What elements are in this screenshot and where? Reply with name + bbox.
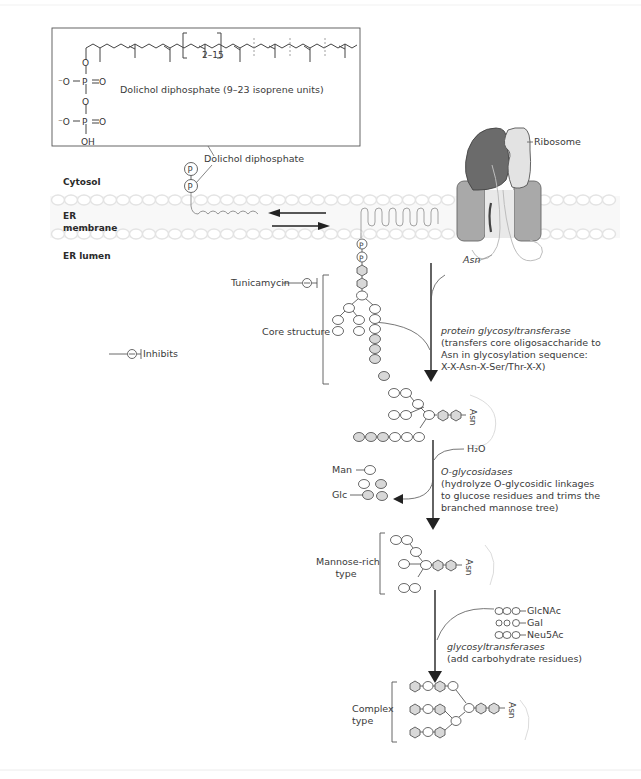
removed-sugars <box>350 466 388 501</box>
er-lumen-label: ER lumen <box>63 250 111 262</box>
ribosome-translocon <box>457 128 542 262</box>
step-1-text: protein glycosyltransferase (transfers c… <box>441 325 601 373</box>
neu5ac-label: Neu5Ac <box>527 629 564 641</box>
atom-o: O <box>99 77 106 87</box>
mannose-label: Man <box>332 464 352 476</box>
atom-o: O <box>82 97 89 107</box>
complex-type-label-line1: Complex <box>352 703 394 715</box>
step-2-desc-line: (hydrolyze O-glycosidic linkages <box>441 478 600 490</box>
dolichol-diphosphate-label: Dolichol diphosphate <box>204 153 304 165</box>
step-2-enzyme: O-glycosidases <box>441 466 600 478</box>
er-membrane-label-line2: membrane <box>63 222 117 234</box>
gal-label: Gal <box>527 617 543 629</box>
repeat-count-label: 2–15 <box>202 49 224 61</box>
svg-text:P: P <box>359 254 364 263</box>
glcnac-label: GlcNAc <box>527 605 561 617</box>
asn-peptide-label: Asn <box>463 254 480 266</box>
glucose-label: Glc <box>332 489 347 501</box>
asn-label: Asn <box>468 409 478 426</box>
atom-o-anion: ⁻O <box>58 77 70 87</box>
added-sugars <box>495 608 526 639</box>
asn-label: Asn <box>507 702 517 719</box>
mannose-rich-glycan <box>380 533 494 594</box>
step-arrow-3 <box>428 590 494 683</box>
asn-label: Asn <box>464 559 474 576</box>
svg-text:P: P <box>359 241 364 250</box>
er-membrane-label-line1: ER <box>63 210 76 222</box>
mannose-rich-label-line1: Mannose-rich <box>316 556 376 568</box>
svg-text:P: P <box>188 182 193 192</box>
step-1-desc-line: (transfers core oligosaccharide to <box>441 337 601 349</box>
atom-oh: OH <box>81 137 95 147</box>
step-2-desc-line: branched mannose tree) <box>441 502 600 514</box>
step-2-desc-line: to glucose residues and trims the <box>441 490 600 502</box>
water-label: H₂O <box>467 443 485 455</box>
atom-o: O <box>99 117 106 127</box>
complex-type-label-line2: type <box>352 715 373 727</box>
ribosome-label: Ribosome <box>534 136 581 148</box>
step-3-desc-line: (add carbohydrate residues) <box>447 653 582 665</box>
core-oligosaccharide: P P <box>333 239 381 364</box>
step-3-text: glycosyltransferases (add carbohydrate r… <box>447 641 582 665</box>
core-structure-label: Core structure <box>262 326 330 338</box>
step-arrow-1 <box>374 263 445 382</box>
inhibits-legend <box>109 349 141 359</box>
inhibits-label: Inhibits <box>143 348 178 360</box>
n-glycosylation-diagram: O P O ⁻O O P O ⁻O OH <box>0 0 641 779</box>
cytosol-label: Cytosol <box>63 176 101 188</box>
svg-text:P: P <box>188 165 193 175</box>
step-1-desc-line: X-X-Asn-X-Ser/Thr-X-X) <box>441 361 601 373</box>
atom-p: P <box>82 117 88 127</box>
atom-o-anion: ⁻O <box>58 117 70 127</box>
step-2-text: O-glycosidases (hydrolyze O-glycosidic l… <box>441 466 600 514</box>
atom-o: O <box>82 58 89 68</box>
atom-p: P <box>82 77 88 87</box>
step-1-enzyme: protein glycosyltransferase <box>441 325 601 337</box>
dolichol-box-title: Dolichol diphosphate (9–23 isoprene unit… <box>120 84 324 96</box>
tunicamycin-label: Tunicamycin <box>231 277 290 289</box>
mannose-rich-label-line2: type <box>316 568 376 580</box>
step-3-enzyme: glycosyltransferases <box>447 641 582 653</box>
step-1-desc-line: Asn in glycosylation sequence: <box>441 349 601 361</box>
